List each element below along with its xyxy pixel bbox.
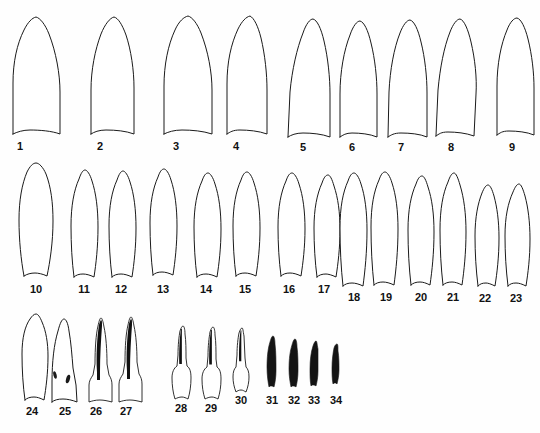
specimen-10: [19, 163, 53, 276]
specimen-label-15: 15: [239, 283, 251, 295]
specimen-label-9: 9: [509, 141, 515, 153]
specimen-plate: 1234567891011121314151617181920212223242…: [0, 0, 540, 433]
specimen-label-24: 24: [26, 405, 39, 417]
specimen-label-10: 10: [30, 283, 42, 295]
specimen-label-8: 8: [448, 141, 454, 153]
specimen-label-3: 3: [173, 140, 179, 152]
specimen-label-27: 27: [120, 405, 132, 417]
specimen-label-23: 23: [510, 292, 522, 304]
specimen-label-4: 4: [233, 140, 240, 152]
specimen-label-1: 1: [17, 140, 23, 152]
specimen-label-7: 7: [398, 141, 404, 153]
specimen-label-32: 32: [288, 394, 300, 406]
specimen-label-13: 13: [157, 283, 169, 295]
specimen-label-2: 2: [97, 140, 103, 152]
specimen-label-34: 34: [330, 394, 343, 406]
specimen-label-28: 28: [175, 402, 187, 414]
specimen-label-26: 26: [90, 405, 102, 417]
specimen-label-5: 5: [300, 141, 306, 153]
specimen-label-29: 29: [205, 402, 217, 414]
specimen-outline-24: [22, 314, 48, 400]
specimen-label-6: 6: [349, 141, 355, 153]
specimen-label-16: 16: [283, 283, 295, 295]
specimen-label-25: 25: [59, 405, 71, 417]
specimen-label-18: 18: [348, 291, 360, 303]
specimen-label-21: 21: [447, 291, 459, 303]
specimen-label-33: 33: [308, 394, 320, 406]
specimen-label-30: 30: [235, 394, 247, 406]
specimen-label-22: 22: [479, 292, 491, 304]
specimen-label-12: 12: [115, 283, 127, 295]
specimen-label-14: 14: [200, 283, 213, 295]
specimen-label-17: 17: [318, 283, 330, 295]
specimen-label-19: 19: [380, 291, 392, 303]
specimen-label-11: 11: [78, 283, 90, 295]
specimen-label-31: 31: [266, 394, 278, 406]
specimen-24: [22, 314, 48, 400]
specimen-label-20: 20: [415, 291, 427, 303]
specimen-outline-10: [19, 163, 53, 276]
